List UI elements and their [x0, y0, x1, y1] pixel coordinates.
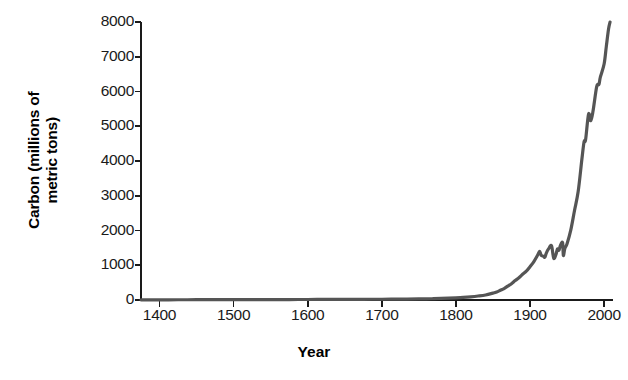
chart-figure: Carbon (millions of metric tons) 0100020… [0, 0, 628, 380]
plot-area [0, 0, 628, 380]
data-line [141, 22, 610, 300]
data-series-group [141, 22, 610, 300]
axis-spines [141, 22, 613, 300]
